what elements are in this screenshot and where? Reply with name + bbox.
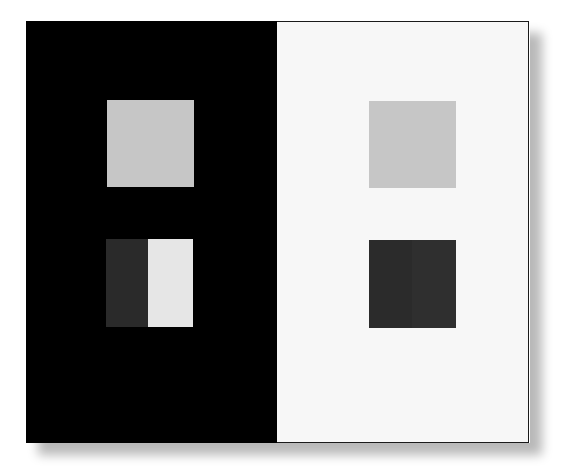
right-gray-target-patch [369,101,456,188]
illusion-figure [26,21,530,443]
right-dark-right-half-patch [412,240,456,328]
left-gray-target-patch [107,100,194,187]
left-dark-half-patch [106,239,148,327]
white-background-panel [277,21,529,443]
black-background-panel [26,21,277,443]
left-light-half-patch [148,239,193,327]
right-dark-left-half-patch [369,240,412,328]
